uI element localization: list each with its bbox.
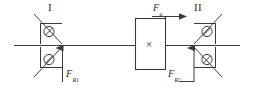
bearing-unit-i: [34, 14, 63, 82]
axial-force-subscript: a: [159, 11, 162, 17]
axial-force-label: Fa: [153, 3, 162, 15]
angular-contact-bearing-lower-right: [194, 47, 222, 77]
angular-contact-bearing-lower-left: [34, 47, 62, 77]
angular-contact-bearing-upper-left: [34, 14, 62, 44]
reaction-force-2-subscript: R2: [174, 77, 181, 83]
cross-symbol: ×: [146, 38, 152, 50]
bearing-unit-1-label: I: [48, 2, 52, 13]
bearing-unit-ii: [180, 14, 222, 82]
reaction-force-2-label: FR2: [168, 69, 181, 81]
reaction-force-1-label: FR1: [66, 69, 79, 81]
reaction-force-1-subscript: R1: [72, 77, 79, 83]
angular-contact-bearing-upper-right: [194, 14, 222, 44]
diagram-canvas: [0, 0, 253, 93]
bearing-unit-2-label: II: [194, 2, 202, 13]
reaction-force-arrow-right: [180, 48, 194, 82]
mechanical-shaft-bearing-diagram: I II Fa FR1 FR2 ×: [0, 0, 253, 93]
